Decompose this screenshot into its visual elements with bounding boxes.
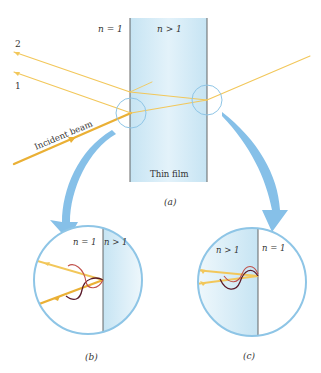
thin-film [130,18,207,182]
thin-film-interference-diagram: n = 1 n > 1 Thin film 2 1 Incident beam [0,0,321,373]
panel-b: n = 1 n > 1 (b) [34,224,148,362]
b-right-label: n > 1 [104,237,127,247]
b-left-label: n = 1 [73,237,96,247]
curved-arrow-right-icon [222,112,288,232]
reflected-ray-1 [14,72,131,113]
c-right-label: n = 1 [262,243,285,253]
caption-c: (c) [243,351,256,361]
curved-arrow-left-icon [50,130,116,240]
ray-label-1: 1 [15,81,21,91]
transmitted-ray [207,56,310,100]
caption-a: (a) [164,197,177,207]
medium-left-label: n = 1 [98,24,123,34]
reflected-ray-2 [14,52,130,92]
panel-c: n > 1 n = 1 (c) [196,226,308,361]
film-label: Thin film [150,169,189,179]
ray-label-2: 2 [15,39,21,49]
medium-right-label: n > 1 [157,24,182,34]
incident-beam-label: Incident beam [33,118,94,151]
c-left-label: n > 1 [216,245,239,255]
caption-b: (b) [85,352,98,362]
